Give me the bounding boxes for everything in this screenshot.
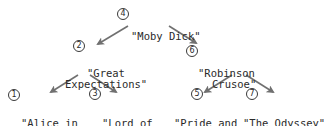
node-label-line: Expectations" bbox=[65, 79, 147, 90]
order-badge-2: 2 bbox=[73, 40, 85, 52]
node-lord-line2: the Flies" bbox=[97, 107, 160, 126]
node-pride-line2: Prejudice" bbox=[174, 107, 237, 126]
node-odyssey: "The Odyssey" bbox=[243, 96, 325, 126]
node-label-line: "Moby Dick" bbox=[131, 31, 201, 42]
order-badge-3: 3 bbox=[89, 88, 101, 100]
edge-moby-great bbox=[98, 26, 128, 44]
order-badge-1: 1 bbox=[8, 89, 20, 101]
node-alice-line2: Wonderland" bbox=[9, 107, 79, 126]
order-badge-4: 4 bbox=[117, 8, 129, 20]
order-badge-6: 6 bbox=[186, 45, 198, 57]
bst-diagram: 4 "Moby Dick" 2 "Great Expectations" 6 "… bbox=[0, 0, 328, 126]
node-label-line: "The Odyssey" bbox=[243, 118, 325, 126]
